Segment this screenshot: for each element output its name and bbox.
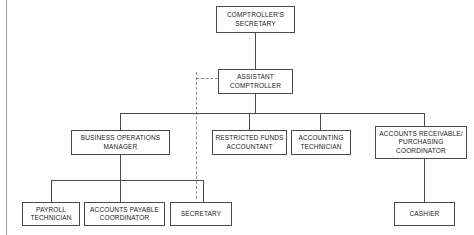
node-label-cashier: CASHIER [410, 210, 440, 219]
connector-drop-accounting-technician [320, 113, 321, 130]
connector-drop-payroll-technician [51, 180, 52, 202]
connector-drop-restricted-funds-accountant [249, 113, 250, 130]
connector-dashed-stub-assistant [196, 78, 218, 79]
node-label-business-operations-manager: BUSINESS OPERATIONS MANAGER [81, 134, 161, 151]
connector-drop-business-operations-manager [120, 113, 121, 130]
node-accounting-technician[interactable]: ACCOUNTING TECHNICIAN [291, 130, 351, 155]
node-label-comptrollers-secretary: COMPTROLLER'S SECRETARY [227, 11, 284, 28]
connector-bus-level4 [51, 180, 203, 181]
node-restricted-funds-accountant[interactable]: RESTRICTED FUNDS ACCOUNTANT [212, 130, 287, 155]
connector-bus-level3 [120, 113, 424, 114]
org-chart-canvas: COMPTROLLER'S SECRETARY ASSISTANT COMPTR… [0, 0, 474, 235]
node-assistant-comptroller[interactable]: ASSISTANT COMPTROLLER [218, 69, 293, 94]
node-business-operations-manager[interactable]: BUSINESS OPERATIONS MANAGER [71, 130, 170, 155]
node-cashier[interactable]: CASHIER [394, 202, 455, 226]
connector-ar-to-cashier [424, 159, 425, 202]
node-label-accounting-technician: ACCOUNTING TECHNICIAN [298, 134, 343, 151]
connector-secretary-to-assistant [255, 33, 256, 69]
connector-bom-to-bus [120, 155, 121, 180]
connector-drop-accounts-payable-coordinator [120, 180, 121, 202]
node-label-restricted-funds-accountant: RESTRICTED FUNDS ACCOUNTANT [215, 134, 283, 151]
page-border-line [6, 0, 7, 235]
node-label-accounts-payable-coordinator: ACCOUNTS PAYABLE COORDINATOR [90, 206, 159, 223]
node-comptrollers-secretary[interactable]: COMPTROLLER'S SECRETARY [216, 6, 295, 33]
connector-assistant-to-bus [255, 94, 256, 113]
node-secretary[interactable]: SECRETARY [170, 202, 232, 226]
node-label-secretary: SECRETARY [181, 210, 221, 219]
node-payroll-technician[interactable]: PAYROLL TECHNICIAN [22, 202, 80, 226]
node-label-accounts-receivable-purchasing-coordinator: ACCOUNTS RECEIVABLE/ PURCHASING COORDINA… [379, 130, 462, 156]
node-accounts-receivable-purchasing-coordinator[interactable]: ACCOUNTS RECEIVABLE/ PURCHASING COORDINA… [375, 126, 467, 159]
node-label-payroll-technician: PAYROLL TECHNICIAN [30, 206, 71, 223]
connector-drop-accounts-receivable [424, 113, 425, 126]
connector-drop-secretary [203, 180, 204, 202]
node-accounts-payable-coordinator[interactable]: ACCOUNTS PAYABLE COORDINATOR [84, 202, 165, 226]
node-label-assistant-comptroller: ASSISTANT COMPTROLLER [230, 73, 281, 90]
